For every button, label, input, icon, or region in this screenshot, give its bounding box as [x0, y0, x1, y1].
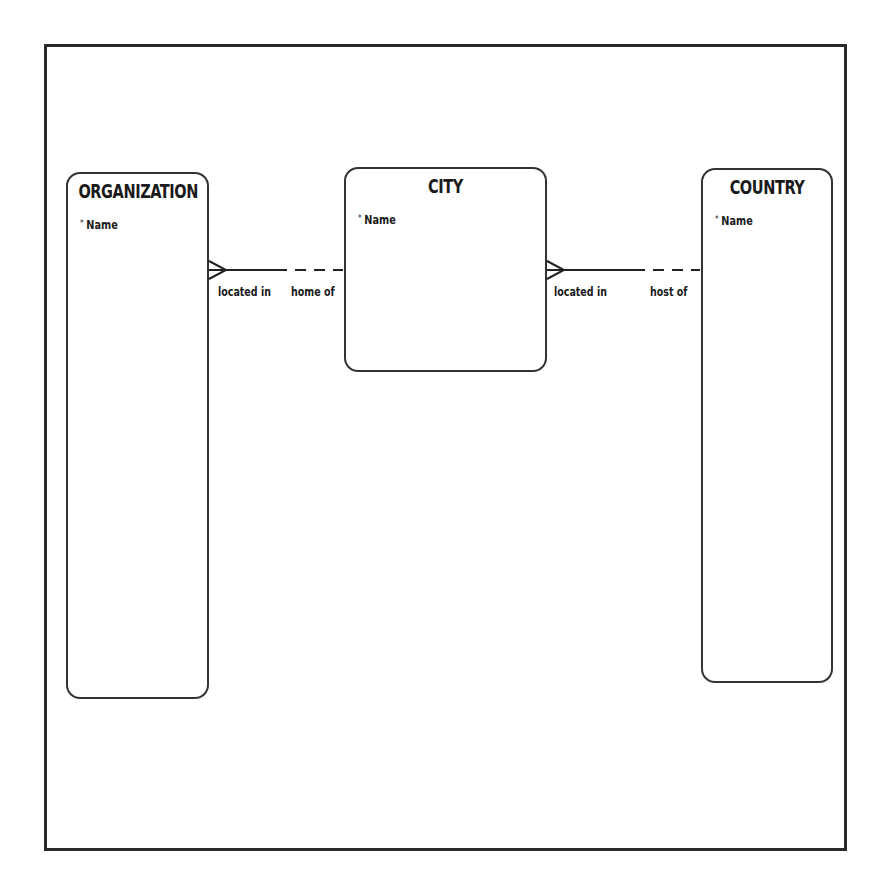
relationship-lines	[0, 0, 885, 886]
relationship-organization-city[interactable]	[209, 261, 343, 279]
relationship-label-city-home-of: home of	[291, 285, 335, 299]
relationship-label-org-located-in: located in	[218, 285, 271, 299]
relationship-label-country-host-of: host of	[650, 285, 687, 299]
relationship-label-city-located-in: located in	[554, 285, 607, 299]
relationship-city-country[interactable]	[547, 261, 700, 279]
